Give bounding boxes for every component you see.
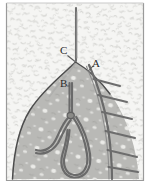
label-c: C [60,45,67,56]
label-a: A [92,58,100,69]
label-b: B [60,78,67,89]
diagram-canvas [0,0,152,192]
figure-container: C A B [0,0,152,192]
